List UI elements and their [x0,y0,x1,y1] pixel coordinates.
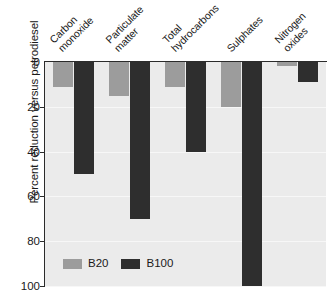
legend-entry: B100 [121,258,173,270]
legend-label: B100 [146,258,173,270]
gridline [45,241,326,242]
bar-chart: Percent reduction versus petrodiesel 020… [0,0,331,301]
bar-b20 [165,62,185,87]
bar-b100 [298,62,318,82]
bar-b20 [221,62,241,107]
bar-b100 [242,62,262,286]
y-tick-label: 100 [0,280,40,292]
y-axis-line [44,61,45,287]
y-tick-label: 40 [0,146,40,158]
category-label: Nitrogenoxides [273,11,316,54]
y-tick-label: 20 [0,101,40,113]
plot-area: 020406080100 [45,62,326,286]
category-label: Particulatematter [104,4,154,54]
y-tick-label: 60 [0,190,40,202]
bar-b20 [277,62,297,66]
bar-b100 [74,62,94,174]
category-label-line: Sulphates [225,14,265,54]
x-axis-line [44,61,327,62]
bar-b20 [53,62,73,87]
legend-label: B20 [88,258,108,270]
bar-b100 [130,62,150,219]
y-tick-label: 0 [0,56,40,68]
y-tick-label: 80 [0,235,40,247]
legend-swatch-b100 [121,259,140,269]
bar-b100 [186,62,206,152]
category-label: Carbonmonoxide [48,6,96,54]
legend-entry: B20 [63,258,108,270]
legend: B20B100 [63,258,173,270]
bar-b20 [109,62,129,96]
gridline [45,196,326,197]
category-label: Sulphates [225,14,265,54]
gridline [45,286,326,287]
legend-swatch-b20 [63,259,82,269]
category-label: Totalhydrocarbons [160,0,220,54]
